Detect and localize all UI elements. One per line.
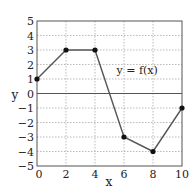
- y-tick-label: −1: [18, 102, 34, 115]
- data-point-marker: [63, 47, 68, 52]
- y-tick-label: 4: [27, 30, 34, 43]
- y-tick-label: 0: [27, 88, 34, 101]
- y-tick-label: 5: [27, 15, 34, 28]
- x-tick-label: 8: [150, 168, 157, 181]
- y-axis-label: y: [11, 88, 19, 102]
- series-annotation: y = f(x): [116, 64, 158, 77]
- x-tick-label: 10: [175, 168, 189, 181]
- data-point-marker: [34, 76, 39, 81]
- x-tick-label: 2: [63, 168, 70, 181]
- y-tick-label: 3: [27, 44, 34, 57]
- series-line: [37, 50, 182, 152]
- y-tick-label: −4: [18, 146, 34, 159]
- y-tick-label: −2: [18, 117, 34, 130]
- data-point-marker: [121, 134, 126, 139]
- y-tick-label: 2: [27, 59, 34, 72]
- data-point-marker: [150, 149, 155, 154]
- y-tick-labels: 543210−1−2−3−4−5: [18, 15, 34, 173]
- chart: 543210−1−2−3−4−5 0246810 y = f(x) x y: [0, 0, 196, 193]
- x-tick-label: 0: [36, 168, 43, 181]
- x-axis-label: x: [106, 175, 113, 189]
- data-point-marker: [92, 47, 97, 52]
- y-tick-label: −3: [18, 131, 34, 144]
- x-tick-label: 4: [92, 168, 99, 181]
- x-tick-label: 6: [121, 168, 128, 181]
- y-tick-label: 1: [27, 73, 34, 86]
- y-tick-label: −5: [18, 160, 34, 173]
- data-point-marker: [179, 105, 184, 110]
